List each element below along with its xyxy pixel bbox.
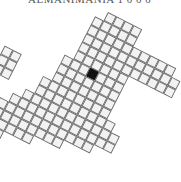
tile-grid-map xyxy=(0,0,181,182)
